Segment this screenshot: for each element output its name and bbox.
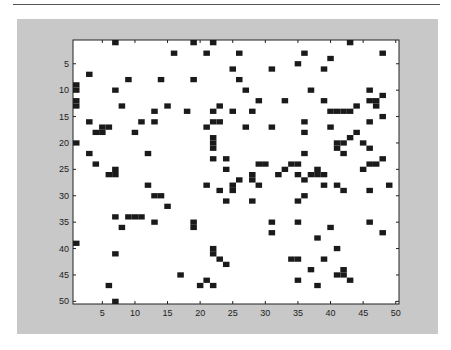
- x-tick-label: 15: [163, 308, 173, 318]
- filled-cell: [119, 103, 126, 108]
- filled-cell: [334, 246, 341, 251]
- x-tick-label: 20: [195, 308, 205, 318]
- filled-cell: [125, 77, 132, 82]
- x-tick-label: 40: [326, 308, 336, 318]
- filled-cell: [164, 204, 171, 209]
- filled-cell: [386, 183, 393, 188]
- filled-cell: [288, 161, 295, 166]
- filled-cell: [301, 51, 308, 56]
- filled-cell: [269, 124, 276, 129]
- y-tick-label: 25: [59, 164, 69, 174]
- filled-cell: [210, 40, 217, 45]
- filled-cell: [243, 88, 250, 93]
- filled-cell: [229, 66, 236, 71]
- filled-cell: [190, 40, 197, 45]
- filled-cell: [295, 256, 302, 261]
- filled-cell: [373, 103, 380, 108]
- filled-cell: [132, 214, 139, 219]
- filled-cell: [269, 66, 276, 71]
- filled-cell: [321, 172, 328, 177]
- filled-cell: [366, 88, 373, 93]
- y-tick-label: 10: [59, 85, 69, 95]
- x-tick-label: 10: [130, 308, 140, 318]
- filled-cell: [308, 88, 315, 93]
- filled-cell: [360, 167, 367, 172]
- y-tick-label: 20: [59, 138, 69, 148]
- filled-cell: [203, 124, 210, 129]
- filled-cell: [106, 124, 113, 129]
- x-tick-label: 25: [228, 308, 238, 318]
- filled-cell: [334, 272, 341, 277]
- filled-cell: [327, 109, 334, 114]
- x-tick-label: 35: [293, 308, 303, 318]
- filled-cell: [190, 220, 197, 225]
- filled-cell: [321, 98, 328, 103]
- filled-cell: [86, 151, 93, 156]
- filled-cell: [340, 109, 347, 114]
- filled-cell: [366, 220, 373, 225]
- filled-cell: [210, 246, 217, 251]
- filled-cell: [366, 119, 373, 124]
- filled-cell: [249, 109, 256, 114]
- filled-cell: [86, 119, 93, 124]
- y-tick-label: 30: [59, 191, 69, 201]
- filled-cell: [379, 230, 386, 235]
- filled-cell: [125, 214, 132, 219]
- filled-cell: [366, 161, 373, 166]
- filled-cell: [86, 72, 93, 77]
- filled-cell: [334, 183, 341, 188]
- filled-cell: [249, 172, 256, 177]
- filled-cell: [347, 135, 354, 140]
- filled-cell: [301, 177, 308, 182]
- filled-cell: [106, 172, 113, 177]
- filled-cell: [184, 109, 191, 114]
- filled-cell: [99, 130, 106, 135]
- filled-cell: [262, 161, 269, 166]
- filled-cell: [210, 135, 217, 140]
- filled-cell: [145, 183, 152, 188]
- filled-cell: [340, 188, 347, 193]
- filled-cell: [73, 241, 80, 246]
- filled-cell: [112, 214, 119, 219]
- filled-cell: [210, 140, 217, 145]
- filled-cell: [73, 82, 80, 87]
- filled-cell: [373, 161, 380, 166]
- filled-cell: [249, 198, 256, 203]
- filled-cell: [282, 98, 289, 103]
- filled-cell: [353, 130, 360, 135]
- y-tick-label: 5: [64, 59, 69, 69]
- filled-cell: [282, 167, 289, 172]
- filled-cell: [379, 156, 386, 161]
- filled-cell: [210, 146, 217, 151]
- filled-cell: [347, 109, 354, 114]
- filled-cell: [151, 119, 158, 124]
- filled-cell: [203, 183, 210, 188]
- x-tick-label: 45: [358, 308, 368, 318]
- filled-cell: [106, 283, 113, 288]
- filled-cell: [223, 156, 230, 161]
- filled-cell: [223, 167, 230, 172]
- y-tick-label: 15: [59, 112, 69, 122]
- filled-cell: [210, 283, 217, 288]
- filled-cell: [360, 140, 367, 145]
- filled-cell: [158, 193, 165, 198]
- filled-cell: [223, 198, 230, 203]
- filled-cell: [229, 188, 236, 193]
- filled-cell: [327, 225, 334, 230]
- filled-cell: [151, 109, 158, 114]
- filled-cell: [229, 109, 236, 114]
- filled-cell: [379, 114, 386, 119]
- filled-cell: [353, 103, 360, 108]
- filled-cell: [145, 151, 152, 156]
- filled-cell: [243, 124, 250, 129]
- filled-cell: [99, 124, 106, 129]
- filled-cell: [340, 151, 347, 156]
- y-tick-label: 40: [59, 244, 69, 254]
- filled-cell: [295, 220, 302, 225]
- filled-cell: [151, 193, 158, 198]
- y-tick-label: 50: [59, 296, 69, 306]
- filled-cell: [314, 167, 321, 172]
- filled-cell: [340, 272, 347, 277]
- filled-cell: [112, 251, 119, 256]
- filled-cell: [301, 130, 308, 135]
